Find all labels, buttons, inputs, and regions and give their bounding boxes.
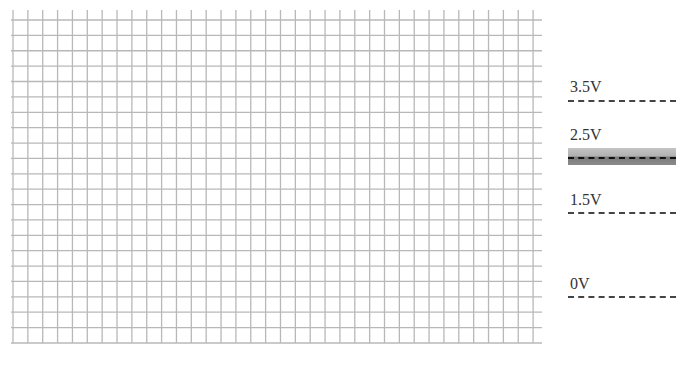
voltage-label-0v: 0V <box>570 276 590 292</box>
voltage-line-2-5v <box>568 157 676 159</box>
voltage-label-3-5v: 3.5V <box>570 79 602 95</box>
voltage-line-3-5v <box>568 100 676 102</box>
voltage-label-1-5v: 1.5V <box>570 192 602 208</box>
voltage-line-0v <box>568 296 676 298</box>
voltage-line-1-5v <box>568 212 676 214</box>
voltage-label-2-5v: 2.5V <box>570 127 602 143</box>
